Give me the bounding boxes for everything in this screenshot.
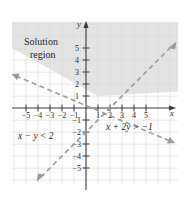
inequality-label-x-minus-y: x − y < 2 — [17, 131, 54, 141]
y-tick-label: −1 — [72, 116, 81, 125]
x-tick-label: −3 — [46, 111, 55, 120]
x-tick-label: 3 — [120, 111, 124, 120]
x-axis-label: x — [169, 108, 174, 118]
y-tick-label: 3 — [75, 68, 79, 77]
y-tick-label: 5 — [75, 44, 79, 53]
y-tick-label: 2 — [75, 80, 79, 89]
graph-figure: −5 −4 −3 −2 −1 1 2 3 4 5 5 4 3 2 1 −1 −2… — [0, 0, 190, 203]
x-tick-label: −2 — [58, 111, 67, 120]
solution-region-label-line1: Solution — [24, 36, 58, 47]
solution-region — [0, 0, 190, 203]
x-tick-label: 4 — [132, 111, 136, 120]
y-tick-label: −4 — [72, 152, 81, 161]
y-tick-label: −5 — [72, 164, 81, 173]
coordinate-plane-svg: −5 −4 −3 −2 −1 1 2 3 4 5 5 4 3 2 1 −1 −2… — [0, 0, 190, 203]
x-tick-label: 5 — [144, 111, 148, 120]
y-axis-label: y — [76, 19, 81, 29]
inequality-label-x-plus-2y: x + 2y > −1 — [105, 122, 153, 132]
y-tick-label: −2 — [72, 128, 81, 137]
x-tick-label: −4 — [34, 111, 43, 120]
x-tick-label: −5 — [22, 111, 31, 120]
y-tick-label: 4 — [75, 56, 79, 65]
y-tick-label: 1 — [75, 92, 79, 101]
x-tick-label: 1 — [96, 111, 100, 120]
solution-region-label-line2: region — [30, 49, 56, 60]
